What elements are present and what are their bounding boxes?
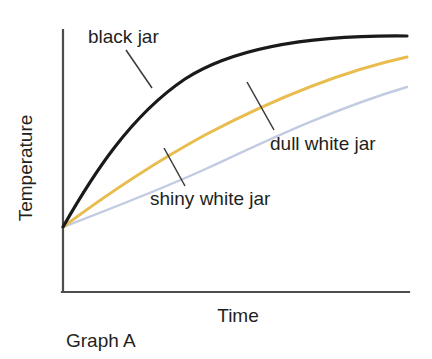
series-label-black-jar: black jar — [88, 26, 159, 47]
leader-line-black-jar — [126, 50, 152, 88]
y-axis-label: Temperature — [15, 115, 36, 222]
graph-a-chart: black jar dull white jar shiny white jar… — [0, 0, 432, 359]
series-label-dull-white-jar: dull white jar — [270, 133, 376, 154]
series-label-shiny-white-jar: shiny white jar — [150, 188, 271, 209]
x-axis-label: Time — [217, 305, 259, 326]
chart-figure: black jar dull white jar shiny white jar… — [0, 0, 432, 359]
figure-caption: Graph A — [66, 330, 136, 351]
leader-line-dull-white-jar — [247, 82, 274, 130]
